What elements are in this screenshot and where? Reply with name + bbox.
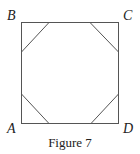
- corner-cut-c: [90, 23, 119, 53]
- vertex-label-a: A: [6, 121, 16, 136]
- vertex-label-b: B: [7, 8, 16, 23]
- vertex-label-d: D: [122, 121, 133, 136]
- corner-cuts: [22, 23, 119, 124]
- corner-cut-d: [91, 94, 119, 124]
- corner-cut-b: [22, 23, 50, 53]
- corner-cut-a: [22, 94, 50, 124]
- figure-7-diagram: B C A D Figure 7: [0, 0, 140, 154]
- figure-caption: Figure 7: [48, 135, 92, 150]
- vertex-label-c: C: [123, 8, 133, 23]
